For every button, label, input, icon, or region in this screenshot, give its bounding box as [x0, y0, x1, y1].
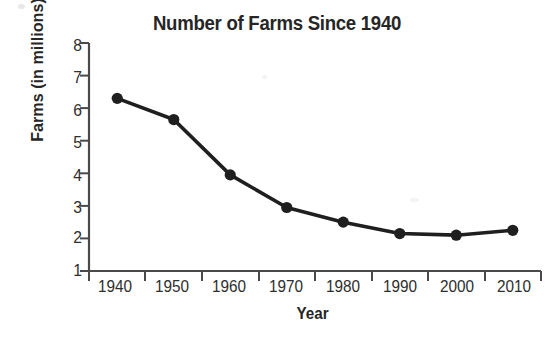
- data-point: [507, 225, 518, 236]
- x-tick-marks: [89, 271, 541, 281]
- data-point: [338, 217, 349, 228]
- data-point: [168, 114, 179, 125]
- chart-figure: Number of Farms Since 1940 Farms (in mil…: [0, 0, 554, 341]
- data-point-markers: [112, 93, 519, 241]
- data-point: [112, 93, 123, 104]
- data-point: [451, 230, 462, 241]
- y-tick-marks: [80, 43, 89, 271]
- data-point: [225, 169, 236, 180]
- data-point: [281, 202, 292, 213]
- data-point: [394, 228, 405, 239]
- plot-area: [0, 0, 554, 341]
